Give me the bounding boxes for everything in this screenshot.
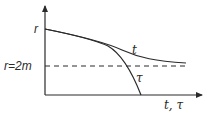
horizon-label: r=2m	[4, 59, 32, 73]
x-axis-label: t, τ	[164, 98, 183, 112]
y-axis-label: r	[34, 22, 39, 36]
curve-t-label: t	[132, 43, 137, 57]
curve-tau-label: τ	[136, 71, 143, 85]
curve-tau	[45, 29, 141, 95]
diagram-canvas: r r=2m t τ t, τ	[0, 0, 213, 118]
